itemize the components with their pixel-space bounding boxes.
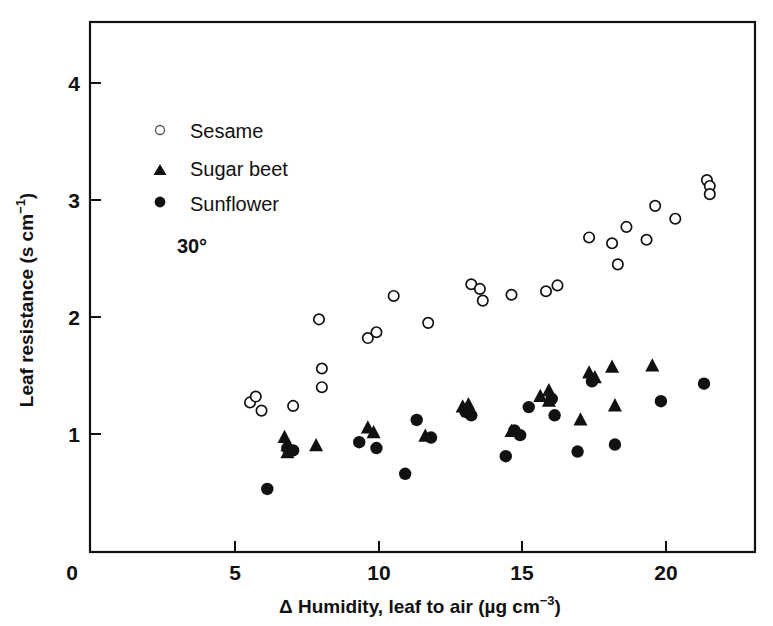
- data-point-filled-circle: [548, 409, 560, 421]
- chart-figure: 4 3 2 1 0 5 10 15 20 Δ Humidity, leaf to…: [0, 0, 773, 626]
- legend-item-sugar-beet: Sugar beet: [154, 158, 289, 180]
- x-tick-label: 0: [66, 561, 78, 584]
- data-point-filled-circle: [546, 393, 558, 405]
- data-point-filled-circle: [353, 436, 365, 448]
- scatter-plot: 4 3 2 1 0 5 10 15 20 Δ Humidity, leaf to…: [0, 0, 773, 626]
- y-tick-label: 1: [68, 423, 80, 446]
- temperature-annotation: 30°: [177, 235, 207, 257]
- x-tick-label: 5: [229, 561, 241, 584]
- legend: Sesame Sugar beet Sunflower: [154, 120, 289, 215]
- x-axis-tick-labels: 0 5 10 15 20: [66, 561, 678, 584]
- data-point-filled-circle: [609, 438, 621, 450]
- data-point-open-circle: [371, 327, 381, 337]
- legend-label: Sugar beet: [190, 158, 288, 180]
- x-axis-ticks: [235, 541, 666, 552]
- y-axis-title: Leaf resistance (s cm−1): [13, 193, 37, 407]
- data-point-open-circle: [475, 284, 485, 294]
- y-tick-label: 3: [68, 189, 80, 212]
- y-axis-ticks: [90, 83, 101, 434]
- data-point-open-circle: [613, 259, 623, 269]
- x-tick-label: 20: [654, 561, 677, 584]
- data-point-filled-circle: [261, 483, 273, 495]
- legend-item-sesame: Sesame: [156, 120, 264, 142]
- filled-triangle-icon: [154, 164, 167, 175]
- data-point-open-circle: [251, 391, 261, 401]
- series-sesame: [245, 175, 715, 416]
- y-tick-label: 2: [68, 306, 80, 329]
- data-point-open-circle: [552, 280, 562, 290]
- data-point-filled-circle: [287, 444, 299, 456]
- data-point-open-circle: [389, 291, 399, 301]
- open-circle-icon: [156, 126, 165, 135]
- data-point-open-circle: [314, 314, 324, 324]
- x-tick-label: 10: [367, 561, 390, 584]
- data-point-filled-circle: [399, 468, 411, 480]
- data-point-open-circle: [506, 290, 516, 300]
- data-point-filled-circle: [514, 429, 526, 441]
- legend-label: Sesame: [190, 120, 263, 142]
- data-point-filled-circle: [698, 377, 710, 389]
- x-axis-title: Δ Humidity, leaf to air (µg cm−3): [279, 593, 561, 617]
- data-point-filled-triangle: [573, 412, 587, 425]
- legend-label: Sunflower: [190, 193, 279, 215]
- data-point-filled-triangle: [645, 358, 659, 371]
- x-axis-title-close: ): [555, 596, 561, 617]
- data-point-open-circle: [317, 382, 327, 392]
- series-sunflower: [261, 375, 710, 495]
- data-point-open-circle: [317, 363, 327, 373]
- data-point-filled-circle: [571, 445, 583, 457]
- data-point-filled-circle: [410, 414, 422, 426]
- data-point-open-circle: [670, 214, 680, 224]
- x-axis-title-exponent: −3: [540, 593, 555, 608]
- x-tick-label: 15: [510, 561, 534, 584]
- x-axis-title-main: Δ Humidity, leaf to air (µg cm: [279, 596, 540, 617]
- filled-circle-icon: [155, 197, 166, 208]
- data-point-filled-triangle: [605, 360, 619, 373]
- data-point-open-circle: [650, 201, 660, 211]
- data-point-filled-circle: [500, 450, 512, 462]
- data-point-open-circle: [423, 318, 433, 328]
- data-point-open-circle: [584, 232, 594, 242]
- data-point-open-circle: [478, 295, 488, 305]
- data-point-filled-triangle: [608, 398, 622, 411]
- y-axis-title-exponent: −1: [13, 199, 28, 214]
- y-axis-title-close: ): [16, 193, 37, 199]
- data-point-filled-circle: [655, 395, 667, 407]
- y-axis-title-main: Leaf resistance (s cm: [16, 214, 37, 407]
- data-point-filled-triangle: [309, 438, 323, 451]
- data-point-filled-circle: [370, 442, 382, 454]
- data-point-filled-circle: [465, 409, 477, 421]
- data-point-open-circle: [256, 405, 266, 415]
- data-point-open-circle: [607, 238, 617, 248]
- y-axis-tick-labels: 4 3 2 1: [68, 72, 80, 446]
- data-point-open-circle: [705, 189, 715, 199]
- data-point-open-circle: [288, 401, 298, 411]
- data-point-filled-circle: [523, 401, 535, 413]
- plot-frame: [90, 22, 755, 552]
- y-tick-label: 4: [68, 72, 80, 95]
- legend-item-sunflower: Sunflower: [155, 193, 280, 215]
- data-point-filled-triangle: [278, 430, 292, 443]
- data-point-open-circle: [621, 222, 631, 232]
- data-point-filled-circle: [425, 431, 437, 443]
- data-point-open-circle: [641, 235, 651, 245]
- data-point-open-circle: [541, 286, 551, 296]
- data-point-filled-circle: [586, 375, 598, 387]
